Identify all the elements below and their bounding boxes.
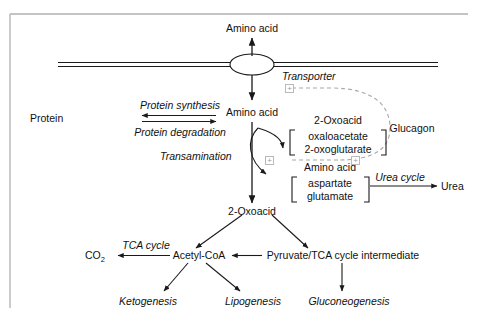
label-amino-acid-intracellular: Amino acid [226,106,278,118]
arrow-oxoacid-to-pyruvate [272,215,308,248]
label-2-oxoglutarate: 2-oxoglutarate [304,143,371,156]
label-acetyl-coa: Acetyl-CoA [173,249,226,261]
label-protein-synthesis: Protein synthesis [140,99,220,111]
label-transamination: Transamination [160,150,232,162]
label-ketogenesis: Ketogenesis [119,295,177,307]
label-co2: CO2 [85,249,105,266]
label-oxaloacetate: oxaloacetate [308,130,368,143]
plus-icon-transamination: + [265,156,274,165]
label-protein-degradation: Protein degradation [134,126,226,138]
label-oxoacid-pool-title: 2-Oxoacid [314,114,362,126]
arrow-transamination-down [250,128,266,174]
label-glutamate: glutamate [307,190,353,203]
label-urea-cycle: Urea cycle [375,171,425,183]
plus-icon-glucagon-branch: + [351,156,360,165]
label-aspartate: aspartate [308,177,352,190]
label-gluconeogenesis: Gluconeogenesis [308,295,389,307]
arrow-transamination-up [258,128,283,148]
arrow-acetylcoa-to-lipogenesis [206,263,240,291]
transporter-oval [230,54,274,75]
arrow-oxoacid-to-acetylcoa [196,215,242,248]
label-lipogenesis: Lipogenesis [225,295,281,307]
label-oxoacid: 2-Oxoacid [228,205,276,217]
pathway-diagram: Amino acid Transporter Amino acid Protei… [0,0,477,322]
label-glucagon: Glucagon [390,122,435,134]
co2-text: CO [85,249,101,261]
co2-subscript: 2 [101,255,105,264]
label-transporter: Transporter [282,70,336,82]
label-tca-cycle: TCA cycle [122,239,169,251]
arrow-acetylcoa-to-ketogenesis [164,263,188,291]
label-aminoacid-pool-title: Amino acid [304,161,356,173]
label-amino-acid-extracellular: Amino acid [226,22,278,34]
label-protein: Protein [30,112,63,124]
diagram-vector-layer [0,0,477,322]
label-urea: Urea [441,180,464,192]
label-pyruvate-tca-intermediate: Pyruvate/TCA cycle intermediate [267,249,419,261]
plus-icon-transporter: + [285,84,294,93]
